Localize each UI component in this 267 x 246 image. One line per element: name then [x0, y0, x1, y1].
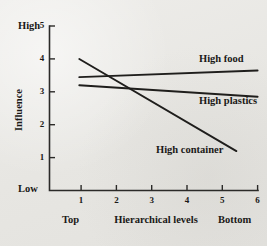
chart-figure: 5 4 3 2 1 1 2 3 4 5 6 High Low Top Hiera…	[0, 0, 267, 246]
x-tick-label-6: 6	[255, 195, 260, 205]
y-tick-label-4: 4	[40, 53, 45, 63]
x-tick-label-2: 2	[114, 195, 119, 205]
y-tick-label-3: 3	[40, 86, 45, 96]
y-tick-label-2: 2	[40, 119, 45, 129]
series-label-high-food: High food	[199, 53, 244, 64]
line-chart-plot: 5 4 3 2 1 1 2 3 4 5 6 High Low Top Hiera…	[0, 0, 267, 246]
x-axis-ticks	[81, 185, 258, 191]
x-tick-label-3: 3	[149, 195, 154, 205]
y-axis-title: Influence	[13, 89, 24, 131]
y-axis-low-caption: Low	[18, 183, 38, 194]
y-axis-high-caption: High	[18, 20, 40, 31]
series-label-high-container: High container	[156, 144, 224, 155]
x-axis-top-caption: Top	[62, 214, 79, 225]
x-tick-label-5: 5	[220, 195, 225, 205]
x-tick-label-4: 4	[185, 195, 190, 205]
series-label-high-plastics: High plastics	[199, 95, 257, 106]
x-tick-label-1: 1	[79, 195, 84, 205]
x-axis-title: Hierarchical levels	[114, 214, 198, 225]
y-tick-label-1: 1	[40, 152, 45, 162]
y-tick-label-5: 5	[40, 20, 45, 30]
x-axis-bottom-caption: Bottom	[218, 214, 251, 225]
chart-axes	[50, 26, 259, 191]
y-axis-ticks	[50, 26, 56, 158]
